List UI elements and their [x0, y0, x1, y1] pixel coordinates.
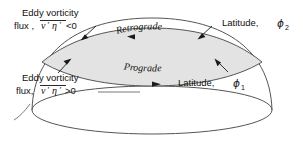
eddy-flux-top-sign: <0	[66, 20, 77, 31]
eddy-flux-top-math-prime1: ′	[47, 20, 50, 30]
eddy-flux-top-math-eta: η	[52, 20, 57, 31]
hemisphere-jet-diagram: Eddy vorticity flux , v ′ η ′ <0 Eddy vo…	[0, 0, 303, 141]
eddy-flux-bottom-math-prime1: ′	[47, 85, 50, 95]
eddy-flux-bottom-math-prime2: ′	[59, 85, 62, 95]
eddy-flux-top-math-prime2: ′	[59, 20, 62, 30]
eddy-flux-bottom-math-v: v	[41, 85, 46, 96]
latitude-phi2-subscript: 2	[285, 24, 289, 31]
latitude-phi1-symbol: ϕ	[233, 77, 240, 89]
eddy-flux-bottom-line1: Eddy vorticity	[22, 72, 79, 83]
eddy-flux-bottom-prefix: flux,	[16, 85, 33, 96]
eddy-flux-top-math-v: v	[41, 20, 46, 31]
eddy-flux-top-prefix: flux ,	[14, 20, 34, 31]
eddy-flux-top-line1: Eddy vorticity	[22, 7, 79, 18]
latitude-phi2-label: Latitude,	[222, 17, 258, 28]
eddy-flux-bottom-math-eta: η	[52, 85, 57, 96]
latitude-phi2-symbol: ϕ	[277, 17, 284, 29]
eddy-flux-bottom-leader	[14, 104, 30, 120]
latitude-phi1-subscript: 1	[241, 84, 245, 91]
latitude-phi1-label: Latitude,	[178, 77, 214, 88]
eddy-flux-bottom-sign: >0	[65, 85, 76, 96]
